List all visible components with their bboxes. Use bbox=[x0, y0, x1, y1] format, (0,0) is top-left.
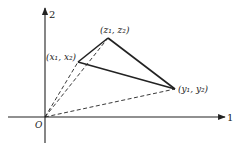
point-label-y: (y₁, y₂) bbox=[178, 84, 209, 94]
edge-x-z bbox=[78, 38, 108, 62]
dashed-ray-origin-to-x bbox=[45, 62, 78, 117]
edge-z-y bbox=[108, 38, 175, 89]
edge-x-y bbox=[78, 62, 175, 89]
horizontal-axis-label: 1 bbox=[227, 112, 233, 123]
vertical-axis-label: 2 bbox=[49, 9, 55, 20]
origin-label: O bbox=[35, 120, 43, 130]
dashed-ray-origin-to-y bbox=[45, 89, 175, 117]
triangle-diagram: 2 1 O (x₁, x₂) (z₁, z₂) (y₁, y₂) bbox=[0, 0, 236, 149]
point-label-x: (x₁, x₂) bbox=[46, 52, 77, 62]
point-label-z: (z₁, z₂) bbox=[100, 25, 130, 35]
